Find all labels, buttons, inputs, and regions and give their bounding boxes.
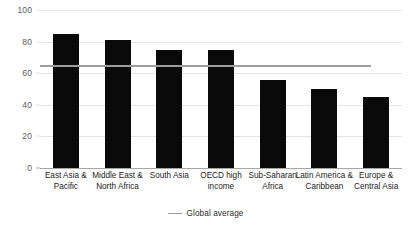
- bar-0: [53, 34, 79, 168]
- x-tick-label-6: Europe &Central Asia: [346, 171, 406, 192]
- axis-baseline: [40, 168, 402, 169]
- bars-layer: [40, 10, 402, 168]
- legend-label-global-average: Global average: [187, 209, 244, 218]
- bar-6: [363, 97, 389, 168]
- chart-legend: Global average: [0, 209, 411, 218]
- y-tick-label-0: 0: [27, 163, 32, 173]
- bar-5: [311, 89, 337, 168]
- y-tick-label-100: 100: [18, 5, 32, 15]
- y-tick-label-20: 20: [22, 131, 32, 141]
- y-tick-label-60: 60: [22, 68, 32, 78]
- y-tick-label-80: 80: [22, 37, 32, 47]
- x-axis-category-labels: East Asia &PacificMiddle East &North Afr…: [40, 171, 402, 199]
- bar-3: [208, 50, 234, 169]
- global-average-line: [40, 65, 371, 67]
- y-tick-label-40: 40: [22, 100, 32, 110]
- bar-2: [156, 50, 182, 169]
- bar-4: [260, 80, 286, 168]
- bar-1: [105, 40, 131, 168]
- y-axis: 020406080100: [0, 0, 36, 231]
- legend-line-swatch-icon: [168, 213, 182, 215]
- bar-chart: 020406080100 East Asia &PacificMiddle Ea…: [0, 0, 411, 231]
